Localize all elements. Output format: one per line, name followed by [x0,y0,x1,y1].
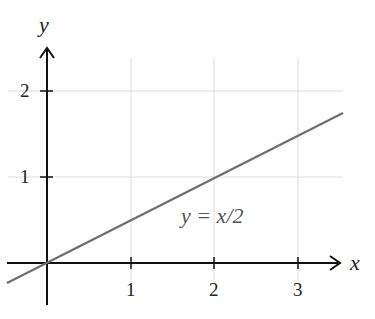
grid [8,58,343,285]
equation-annotation: y = x/2 [181,205,244,227]
y-tick-label-1: 1 [20,167,30,186]
x-tick-label-1: 1 [126,280,136,299]
x-tick-label-2: 2 [209,280,219,299]
y-axis-label: y [39,14,49,36]
y-tick-label-2: 2 [20,81,30,100]
plot-area [0,0,375,319]
x-axis-label: x [350,252,360,274]
x-tick-label-3: 3 [293,280,303,299]
series-line [7,113,343,283]
ticks [40,91,298,269]
